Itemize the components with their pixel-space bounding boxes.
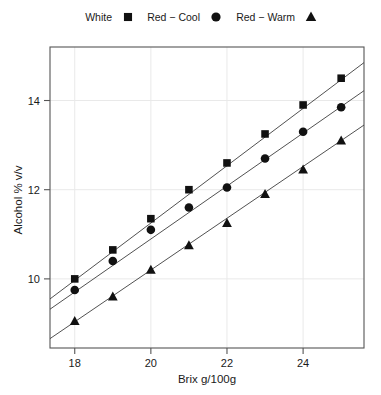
x-tick-label: 24 — [297, 357, 309, 369]
fit-line-square — [50, 63, 364, 299]
fit-line-triangle — [50, 125, 364, 339]
marker-square — [109, 246, 117, 254]
chart-canvas: WhiteRed − CoolRed − Warm 18202224 10121… — [0, 0, 381, 395]
y-tick-label: 10 — [28, 273, 40, 285]
marker-triangle — [306, 11, 316, 21]
marker-square — [71, 275, 79, 283]
marker-square — [147, 215, 155, 223]
y-tick-label: 14 — [28, 95, 40, 107]
series-triangle — [70, 135, 346, 325]
legend-item-label: Red − Warm — [236, 11, 295, 23]
x-tick-label: 20 — [145, 357, 157, 369]
series-circle — [70, 103, 345, 294]
legend-item-triangle[interactable]: Red − Warm — [236, 11, 316, 23]
marker-square — [185, 186, 193, 194]
marker-circle — [147, 226, 156, 235]
marker-triangle — [70, 316, 80, 325]
fit-line-circle — [50, 91, 364, 310]
marker-triangle — [146, 265, 156, 274]
marker-triangle — [108, 291, 118, 300]
marker-square — [223, 159, 231, 167]
marker-circle — [70, 286, 79, 295]
x-tick-label: 18 — [69, 357, 81, 369]
marker-circle — [211, 12, 220, 21]
chart-legend: WhiteRed − CoolRed − Warm — [85, 11, 316, 23]
marker-square — [299, 101, 307, 109]
scatter-plot-figure: WhiteRed − CoolRed − Warm 18202224 10121… — [0, 0, 381, 395]
marker-circle — [185, 203, 194, 212]
series-square — [71, 74, 345, 282]
legend-item-square[interactable]: White — [85, 11, 132, 23]
marker-square — [337, 74, 345, 82]
marker-circle — [223, 183, 232, 192]
marker-square — [261, 130, 269, 138]
x-tick-label: 22 — [221, 357, 233, 369]
marker-square — [124, 13, 132, 21]
marker-circle — [337, 103, 346, 112]
gridlines — [50, 47, 364, 348]
legend-item-circle[interactable]: Red − Cool — [147, 11, 220, 23]
marker-circle — [299, 127, 308, 136]
legend-item-label: White — [85, 11, 112, 23]
y-tick-label: 12 — [28, 184, 40, 196]
plot-frame — [50, 47, 364, 348]
marker-triangle — [336, 135, 346, 144]
marker-circle — [109, 257, 118, 266]
fit-lines — [50, 63, 364, 339]
legend-item-label: Red − Cool — [147, 11, 200, 23]
marker-triangle — [222, 218, 232, 227]
y-axis-ticks: 101214 — [28, 95, 50, 285]
x-axis-ticks: 18202224 — [69, 348, 310, 369]
marker-circle — [261, 154, 270, 163]
y-axis-title: Alcohol % v/v — [12, 165, 24, 234]
x-axis-title: Brix g/100g — [178, 373, 236, 385]
